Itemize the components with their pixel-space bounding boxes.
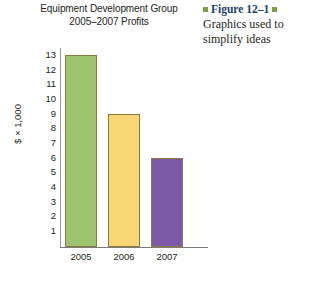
x-axis-tick-label: 2007 (156, 251, 177, 262)
figure-12-1: Equipment Development Group 2005–2007 Pr… (0, 0, 319, 287)
figure-caption-text: Graphics used to simplify ideas (203, 17, 319, 46)
bar-chart-plot: $ × 1,000 12345678910111213 200520062007 (0, 0, 220, 287)
figure-number-label: Figure 12–1 (211, 3, 269, 15)
bar-2006 (108, 114, 140, 247)
bar-group (0, 0, 220, 287)
bar-2007 (151, 158, 183, 247)
square-bullet-leading-icon (203, 7, 208, 12)
x-axis-tick-label: 2005 (70, 251, 91, 262)
x-axis-tick-label: 2006 (113, 251, 134, 262)
figure-caption: Figure 12–1 Graphics used to simplify id… (203, 2, 319, 46)
square-bullet-trailing-icon (272, 7, 277, 12)
figure-caption-heading: Figure 12–1 (203, 2, 319, 16)
bar-2005 (65, 55, 97, 247)
x-axis-tick-labels: 200520062007 (0, 251, 220, 267)
